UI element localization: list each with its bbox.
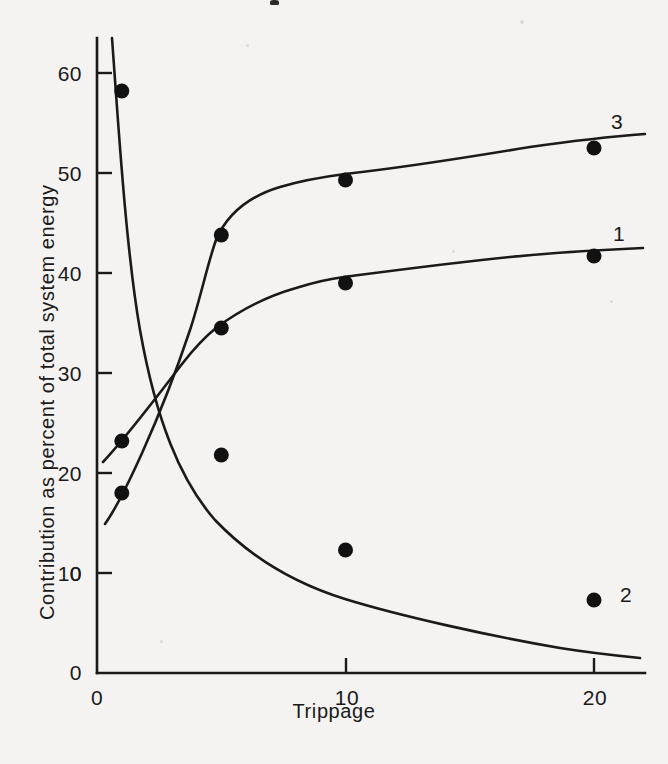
x-axis-ticks — [346, 658, 594, 673]
series-3-markers — [114, 141, 601, 501]
data-point — [587, 249, 602, 264]
data-point — [338, 173, 353, 188]
series-2-curve — [112, 38, 640, 658]
data-point — [114, 434, 129, 449]
plot-canvas — [0, 0, 668, 764]
y-tick-label-50: 50 — [30, 162, 82, 186]
y-tick-label-origin: 0 — [56, 661, 82, 685]
series-label-3: 3 — [611, 110, 623, 134]
series-2-markers — [114, 84, 601, 608]
paper-speck — [160, 640, 163, 643]
y-tick-label-60: 60 — [30, 62, 82, 86]
data-point — [338, 543, 353, 558]
y-axis-title: Contribution as percent of total system … — [36, 184, 59, 620]
y-axis-ticks — [97, 73, 112, 573]
series-label-1: 1 — [613, 222, 625, 246]
data-point — [214, 321, 229, 336]
data-point — [214, 448, 229, 463]
data-point — [587, 593, 602, 608]
paper-speck — [246, 44, 249, 47]
data-point — [587, 141, 602, 156]
data-point — [114, 84, 129, 99]
paper-speck — [520, 20, 524, 24]
x-axis-title: Trippage — [0, 700, 668, 723]
data-point — [214, 228, 229, 243]
series-label-2: 2 — [620, 583, 632, 607]
chart-figure: 0 60 50 40 30 20 10 0 0 10 20 Trippage C… — [0, 0, 668, 764]
data-point — [114, 486, 129, 501]
paper-speck — [610, 300, 613, 303]
data-point — [338, 276, 353, 291]
paper-speck — [452, 250, 455, 253]
series-3-curve — [105, 134, 645, 524]
series-1-curve — [103, 248, 643, 462]
series-1-markers — [114, 249, 601, 449]
